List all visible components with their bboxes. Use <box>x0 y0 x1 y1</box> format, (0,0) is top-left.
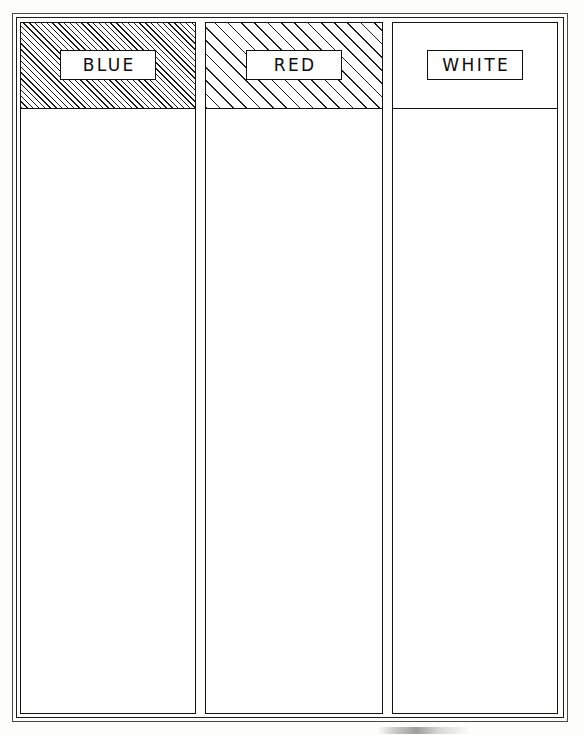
column-white-header-band: WHITE <box>393 23 557 109</box>
scan-artifact-smudge <box>378 727 470 734</box>
column-blue-body[interactable] <box>21 109 195 713</box>
column-red-label-plate[interactable]: RED <box>246 50 342 80</box>
column-red-label: RED <box>271 57 316 74</box>
column-white-label-plate[interactable]: WHITE <box>427 50 523 80</box>
column-blue-label-plate[interactable]: BLUE <box>60 50 156 80</box>
column-red[interactable]: RED <box>205 22 383 714</box>
column-red-body[interactable] <box>206 109 382 713</box>
column-white-body[interactable] <box>393 109 557 713</box>
column-blue[interactable]: BLUE <box>20 22 196 714</box>
column-blue-label: BLUE <box>80 57 135 74</box>
column-white[interactable]: WHITE <box>392 22 558 714</box>
column-blue-header-band: BLUE <box>21 23 195 109</box>
column-red-header-band: RED <box>206 23 382 109</box>
worksheet-sheet: BLUE RED WHITE <box>0 0 584 735</box>
column-white-label: WHITE <box>440 57 510 74</box>
